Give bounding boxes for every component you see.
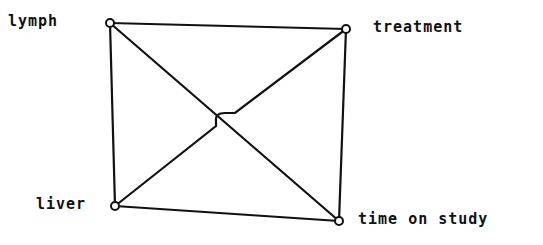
edge-lymph-treatment bbox=[110, 23, 346, 29]
label-time-on-study: time on study bbox=[358, 210, 488, 228]
node-liver bbox=[111, 202, 119, 210]
edge-treatment-time-on-study bbox=[339, 29, 346, 221]
label-treatment: treatment bbox=[373, 18, 463, 36]
graph-diagram: lymph treatment liver time on study bbox=[0, 0, 543, 245]
label-lymph: lymph bbox=[8, 12, 58, 30]
edge-liver-time-on-study bbox=[115, 206, 339, 221]
label-liver: liver bbox=[36, 195, 86, 213]
node-treatment bbox=[342, 25, 350, 33]
edge-lymph-liver bbox=[110, 23, 115, 206]
edge-lymph-time-on-study bbox=[110, 23, 339, 221]
edge-treatment-liver bbox=[115, 29, 346, 206]
node-lymph bbox=[106, 19, 114, 27]
node-time-on-study bbox=[335, 217, 343, 225]
